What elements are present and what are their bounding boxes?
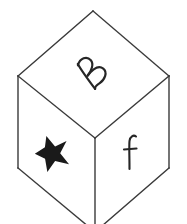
cube-figure xyxy=(0,0,187,224)
letter-f-crossbar xyxy=(124,149,137,150)
cube-diagram xyxy=(0,0,187,224)
